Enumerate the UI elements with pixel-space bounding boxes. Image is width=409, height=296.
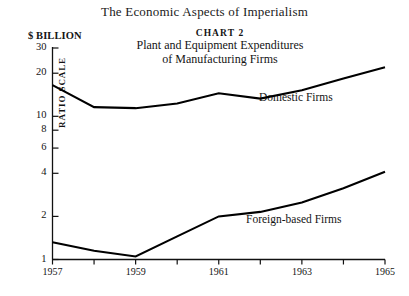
x-axis-tick-label-1965: 1965 bbox=[365, 266, 405, 277]
x-axis-tick-label-1961: 1961 bbox=[199, 266, 239, 277]
page-title: The Economic Aspects of Imperialism bbox=[0, 4, 409, 20]
series-label-foreign-based-firms: Foreign-based Firms bbox=[246, 213, 342, 225]
series-label-domestic-firms: Domestic Firms bbox=[259, 91, 333, 103]
chart-title-line-2: of Manufacturing Firms bbox=[95, 53, 345, 67]
x-axis-tick-label-1957: 1957 bbox=[33, 266, 73, 277]
y-axis-unit-label: $ BILLION bbox=[28, 30, 82, 41]
y-axis-tick-label-6: 6 bbox=[29, 141, 47, 152]
chart-series-lines bbox=[53, 67, 386, 256]
x-axis-tick-label-1959: 1959 bbox=[116, 266, 156, 277]
y-axis-tick-label-1: 1 bbox=[29, 253, 47, 264]
chart-axes bbox=[52, 47, 385, 260]
chart-number-label: CHART 2 bbox=[120, 28, 320, 38]
y-axis-tick-label-4: 4 bbox=[29, 166, 47, 177]
series-line-domestic-firms bbox=[53, 67, 386, 108]
chart-page: The Economic Aspects of Imperialism $ BI… bbox=[0, 0, 409, 296]
y-axis-tick-label-10: 10 bbox=[29, 109, 47, 120]
y-axis-tick-label-20: 20 bbox=[29, 66, 47, 77]
chart-title: Plant and Equipment Expenditures of Manu… bbox=[95, 39, 345, 66]
x-axis-tick-label-1963: 1963 bbox=[282, 266, 322, 277]
y-axis-tick-label-2: 2 bbox=[29, 209, 47, 220]
ratio-scale-label: RATIO SCALE bbox=[57, 57, 67, 128]
y-axis-tick-label-30: 30 bbox=[29, 41, 47, 52]
chart-title-line-1: Plant and Equipment Expenditures bbox=[95, 39, 345, 53]
x-axis-ticks bbox=[53, 260, 386, 265]
y-axis-tick-label-8: 8 bbox=[29, 123, 47, 134]
